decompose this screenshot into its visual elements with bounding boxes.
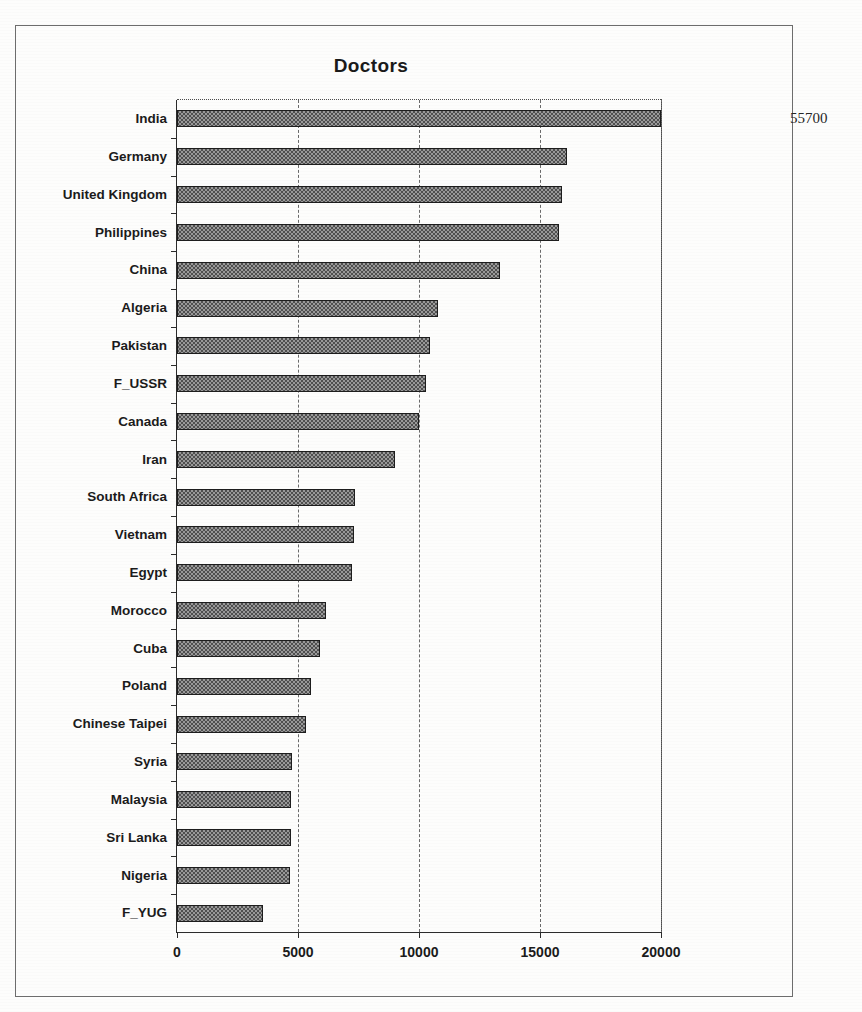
- category-label-sri-lanka: Sri Lanka: [106, 831, 167, 845]
- category-label-philippines: Philippines: [95, 226, 167, 240]
- bar-pakistan[interactable]: [177, 337, 430, 354]
- category-label-canada: Canada: [118, 415, 167, 429]
- x-tick-label-10000: 10000: [400, 944, 439, 960]
- y-tick-13: [171, 592, 177, 593]
- bar-vietnam[interactable]: [177, 526, 354, 543]
- bar-row: Malaysia: [177, 791, 661, 808]
- category-label-vietnam: Vietnam: [115, 528, 167, 542]
- category-label-south-africa: South Africa: [87, 490, 167, 504]
- bar-cuba[interactable]: [177, 640, 320, 657]
- bar-row: Germany: [177, 148, 661, 165]
- bar-row: F_USSR: [177, 375, 661, 392]
- category-label-morocco: Morocco: [111, 604, 167, 618]
- bar-poland[interactable]: [177, 678, 311, 695]
- bar-row: United Kingdom: [177, 186, 661, 203]
- x-tick-20000: [661, 932, 662, 938]
- category-label-algeria: Algeria: [121, 301, 167, 315]
- bar-iran[interactable]: [177, 451, 395, 468]
- bar-row: Algeria: [177, 300, 661, 317]
- x-tick-5000: [298, 932, 299, 938]
- y-tick-17: [171, 743, 177, 744]
- x-tick-label-0: 0: [173, 944, 181, 960]
- y-tick-19: [171, 819, 177, 820]
- category-label-china: China: [129, 263, 167, 277]
- bar-united-kingdom[interactable]: [177, 186, 562, 203]
- gridline-20000: [661, 100, 662, 932]
- category-label-chinese-taipei: Chinese Taipei: [73, 717, 167, 731]
- bar-row: Canada: [177, 413, 661, 430]
- y-tick-20: [171, 856, 177, 857]
- bar-morocco[interactable]: [177, 602, 326, 619]
- bar-row: Poland: [177, 678, 661, 695]
- bar-row: India55700: [177, 110, 661, 127]
- bar-row: Syria: [177, 753, 661, 770]
- bar-row: F_YUG: [177, 905, 661, 922]
- x-tick-label-20000: 20000: [642, 944, 681, 960]
- bar-row: Pakistan: [177, 337, 661, 354]
- category-label-iran: Iran: [142, 453, 167, 467]
- x-tick-label-5000: 5000: [282, 944, 313, 960]
- category-label-malaysia: Malaysia: [111, 793, 167, 807]
- category-label-pakistan: Pakistan: [111, 339, 167, 353]
- y-tick-12: [171, 554, 177, 555]
- bar-canada[interactable]: [177, 413, 419, 430]
- bar-f-ussr[interactable]: [177, 375, 426, 392]
- y-tick-7: [171, 365, 177, 366]
- y-tick-5: [171, 289, 177, 290]
- category-label-cuba: Cuba: [133, 642, 167, 656]
- bar-south-africa[interactable]: [177, 489, 355, 506]
- bar-algeria[interactable]: [177, 300, 438, 317]
- bar-india[interactable]: [177, 110, 661, 127]
- bar-china[interactable]: [177, 262, 500, 279]
- bar-row: Vietnam: [177, 526, 661, 543]
- bar-egypt[interactable]: [177, 564, 352, 581]
- chart-title: Doctors: [60, 55, 682, 77]
- bar-row: Iran: [177, 451, 661, 468]
- bar-row: China: [177, 262, 661, 279]
- bar-malaysia[interactable]: [177, 791, 291, 808]
- bar-row: Morocco: [177, 602, 661, 619]
- category-label-f-yug: F_YUG: [122, 906, 167, 920]
- bar-chinese-taipei[interactable]: [177, 716, 306, 733]
- category-label-egypt: Egypt: [129, 566, 167, 580]
- bar-row: Cuba: [177, 640, 661, 657]
- bar-row: Chinese Taipei: [177, 716, 661, 733]
- bar-philippines[interactable]: [177, 224, 559, 241]
- y-tick-3: [171, 213, 177, 214]
- category-label-poland: Poland: [122, 679, 167, 693]
- y-tick-14: [171, 629, 177, 630]
- plot-area: India55700GermanyUnited KingdomPhilippin…: [176, 100, 661, 933]
- y-tick-2: [171, 176, 177, 177]
- y-tick-6: [171, 327, 177, 328]
- bar-row: Nigeria: [177, 867, 661, 884]
- y-tick-21: [171, 894, 177, 895]
- x-tick-10000: [419, 932, 420, 938]
- y-tick-1: [171, 138, 177, 139]
- category-label-syria: Syria: [134, 755, 167, 769]
- x-tick-label-15000: 15000: [521, 944, 560, 960]
- x-tick-0: [177, 932, 178, 938]
- category-label-germany: Germany: [108, 150, 167, 164]
- y-tick-16: [171, 705, 177, 706]
- y-tick-15: [171, 667, 177, 668]
- y-tick-4: [171, 251, 177, 252]
- bar-row: Sri Lanka: [177, 829, 661, 846]
- y-tick-10: [171, 478, 177, 479]
- category-label-united-kingdom: United Kingdom: [63, 188, 167, 202]
- y-tick-11: [171, 516, 177, 517]
- bar-nigeria[interactable]: [177, 867, 290, 884]
- y-tick-18: [171, 781, 177, 782]
- category-label-f-ussr: F_USSR: [114, 377, 167, 391]
- bar-syria[interactable]: [177, 753, 292, 770]
- bar-sri-lanka[interactable]: [177, 829, 291, 846]
- bar-row: Philippines: [177, 224, 661, 241]
- category-label-nigeria: Nigeria: [121, 869, 167, 883]
- y-tick-9: [171, 440, 177, 441]
- y-tick-8: [171, 403, 177, 404]
- category-label-india: India: [135, 112, 167, 126]
- bar-f-yug[interactable]: [177, 905, 263, 922]
- bar-row: Egypt: [177, 564, 661, 581]
- bar-value-label-india: 55700: [790, 111, 828, 126]
- bar-germany[interactable]: [177, 148, 567, 165]
- x-tick-15000: [540, 932, 541, 938]
